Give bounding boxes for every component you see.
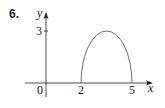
x-tick-label-2: 2 — [78, 83, 84, 97]
curve — [81, 31, 132, 83]
graph: 0 2 5 3 x y — [0, 0, 165, 108]
y-tick-label-3: 3 — [36, 24, 42, 38]
x-tick-label-5: 5 — [129, 83, 135, 97]
x-axis-label: x — [147, 81, 154, 95]
origin-label: 0 — [37, 83, 43, 97]
y-axis-label: y — [36, 6, 43, 20]
